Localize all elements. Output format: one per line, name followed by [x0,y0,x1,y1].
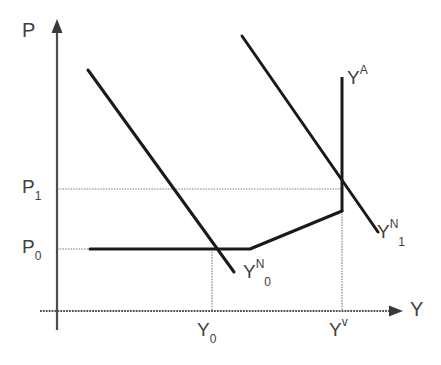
price-axis-arrowhead [52,19,63,33]
price-level-1-label: P1 [22,177,41,199]
aggregate-demand-curve-1 [242,36,378,232]
aggregate-demand-curve-0-label: YN0 [243,262,271,285]
aggregate-supply-capacity-label: YA [347,68,368,87]
aggregate-demand-curve-0 [88,70,234,272]
economics-diagram-figure: P Y P1 P0 Y0 Yv YN0 YN1 YA [0,0,441,365]
output-v-label: Yv [329,320,348,339]
diagram-canvas [0,0,441,365]
output-axis-label: Y [410,299,423,319]
output-0-label: Y0 [197,320,216,342]
aggregate-demand-curve-1-label: YN1 [377,222,405,245]
axes-group [40,19,403,330]
output-axis-arrowhead [389,306,403,317]
price-level-0-label: P0 [22,237,41,259]
price-axis-label: P [22,20,35,40]
aggregate-supply-curve [90,211,342,249]
curves-group [88,36,378,272]
